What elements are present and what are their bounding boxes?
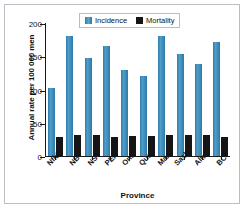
bar-group-alta bbox=[193, 23, 211, 156]
y-tick-label: 150 bbox=[29, 53, 42, 62]
x-label-cell: Alta. bbox=[193, 159, 211, 189]
chart-legend: Incidence Mortality bbox=[79, 13, 180, 28]
x-label-cell: BC bbox=[212, 159, 230, 189]
legend-item-mortality: Mortality bbox=[136, 16, 174, 25]
x-axis-title: Province bbox=[45, 191, 230, 200]
bar-incidence-sask bbox=[177, 54, 184, 156]
plot-area: 050100150200 bbox=[45, 23, 230, 157]
bar-mortality-ns bbox=[93, 135, 100, 156]
x-label-cell: NS bbox=[83, 159, 101, 189]
legend-item-incidence: Incidence bbox=[85, 16, 127, 25]
bar-group-ns bbox=[83, 23, 101, 156]
y-tick-label: 50 bbox=[33, 119, 42, 128]
bar-incidence-man bbox=[158, 36, 165, 156]
bar-group-que bbox=[138, 23, 156, 156]
bar-incidence-ont bbox=[121, 70, 128, 156]
chart-frame: Annual rate per 100 000 men 050100150200… bbox=[4, 4, 240, 204]
y-tick-label: 100 bbox=[29, 86, 42, 95]
y-tick-label: 0 bbox=[38, 153, 42, 162]
chart-figure: Annual rate per 100 000 men 050100150200… bbox=[0, 0, 244, 208]
x-axis-tick-labels: Nfld.NBNSPEIOnt.Que.Man.Sask.Alta.BC bbox=[46, 159, 230, 189]
x-label-cell: Sask. bbox=[175, 159, 193, 189]
bar-incidence-nb bbox=[66, 36, 73, 156]
bar-groups bbox=[46, 23, 230, 156]
bar-incidence-nfld bbox=[48, 88, 55, 156]
bar-group-nb bbox=[64, 23, 82, 156]
x-label-cell: Man. bbox=[156, 159, 174, 189]
black-square-icon bbox=[136, 17, 143, 24]
bar-incidence-ns bbox=[85, 58, 92, 156]
bar-incidence-bc bbox=[213, 42, 220, 156]
x-label-cell: PEI bbox=[101, 159, 119, 189]
bar-group-nfld bbox=[46, 23, 64, 156]
y-tick-label: 200 bbox=[29, 20, 42, 29]
bar-group-bc bbox=[212, 23, 230, 156]
bar-group-ont bbox=[120, 23, 138, 156]
bar-incidence-que bbox=[140, 76, 147, 156]
legend-label-incidence: Incidence bbox=[95, 16, 127, 25]
bar-group-man bbox=[156, 23, 174, 156]
x-label-cell: NB bbox=[64, 159, 82, 189]
bar-group-sask bbox=[175, 23, 193, 156]
legend-label-mortality: Mortality bbox=[146, 16, 174, 25]
bar-group-pei bbox=[101, 23, 119, 156]
x-label-cell: Ont. bbox=[120, 159, 138, 189]
blue-square-icon bbox=[85, 17, 92, 24]
x-label-cell: Que. bbox=[138, 159, 156, 189]
x-label-cell: Nfld. bbox=[46, 159, 64, 189]
bar-incidence-pei bbox=[103, 46, 110, 156]
bar-incidence-alta bbox=[195, 64, 202, 156]
